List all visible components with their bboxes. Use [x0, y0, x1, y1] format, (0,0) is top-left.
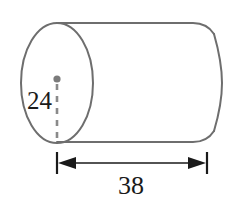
center-point-dot [53, 75, 60, 82]
figure-canvas: 24 38 [0, 0, 245, 202]
dimension-arrowhead-left [58, 157, 76, 169]
length-label: 38 [118, 171, 144, 200]
cylinder-top-edge [57, 23, 214, 34]
diameter-label: 24 [27, 87, 53, 114]
cylinder-diagram: 24 38 [0, 0, 245, 202]
cylinder-bottom-edge [57, 131, 214, 142]
dimension-arrowhead-right [188, 157, 206, 169]
cylinder-far-end-arc [214, 34, 222, 131]
